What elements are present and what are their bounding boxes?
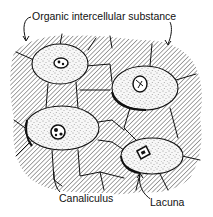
label-organic-intercellular-substance: Organic intercellular substance — [31, 11, 177, 22]
cell-middle-left — [25, 106, 99, 150]
cell-top-left — [32, 44, 88, 84]
nucleus-icon — [51, 125, 65, 139]
nucleus-icon — [54, 58, 68, 68]
bone-tissue-diagram: Organic intercellular substance Canalicu… — [0, 0, 213, 217]
label-lacuna: Lacuna — [150, 197, 184, 208]
cell-top-right — [112, 66, 178, 110]
cell-bottom-right — [121, 138, 183, 174]
diagram-canvas — [0, 0, 213, 217]
label-canaliculus: Canaliculus — [59, 193, 113, 204]
